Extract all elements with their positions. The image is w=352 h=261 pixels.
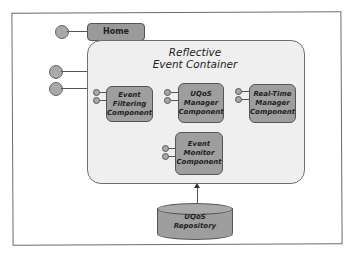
component-label: Component [176,158,221,167]
component-port-icon [235,96,242,103]
home-interface[interactable]: Home [87,23,145,41]
container-title: Reflective Event Container [87,46,303,70]
container-port-icon [49,82,63,96]
home-connector [67,31,87,32]
uqos-manager-component[interactable]: UQoS Manager Component [178,83,224,123]
component-port-icon [164,97,171,104]
component-label: UQoS [178,90,223,99]
component-label: Event [107,91,152,100]
arrow-up-icon [194,183,200,188]
component-port-icon [164,89,171,96]
container-title-line2: Event Container [87,58,303,70]
component-label: Monitor [176,149,221,158]
repository-label-line2: Repository [157,222,233,231]
component-port-icon [235,88,242,95]
container-port-icon [49,65,63,79]
repository-label: UQoS Repository [157,213,233,231]
component-port-connector [171,92,178,93]
repository-label-line1: UQoS [157,213,233,222]
container-port-connector [61,88,87,89]
component-label: Real-Time [250,90,295,99]
component-port-icon [162,153,169,160]
component-label: Event [176,140,221,149]
component-label: Component [178,108,223,117]
component-port-connector [242,91,249,92]
component-label: Manager [250,99,295,108]
container-port-connector [61,71,87,72]
home-port-icon [55,25,69,39]
component-label: Component [250,108,295,117]
container-title-line1: Reflective [87,46,303,58]
component-label: Manager [178,99,223,108]
component-port-connector [171,100,178,101]
component-port-connector [242,99,249,100]
uqos-repository[interactable]: UQoS Repository [157,203,233,239]
component-label: Component [107,109,152,118]
component-label: Filtering [107,100,152,109]
component-port-icon [93,97,100,104]
event-monitor-component[interactable]: Event Monitor Component [175,132,223,175]
component-port-icon [162,145,169,152]
real-time-manager-component[interactable]: Real-Time Manager Component [249,84,296,123]
repository-connector [197,187,198,204]
component-port-icon [93,89,100,96]
event-filtering-component[interactable]: Event Filtering Component [106,86,153,122]
